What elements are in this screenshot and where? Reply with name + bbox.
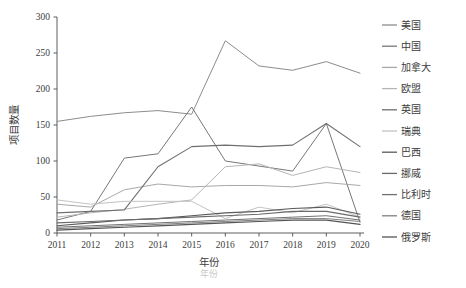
x-tick-label: 2013 bbox=[115, 240, 134, 250]
legend-item-1[interactable]: 中国 bbox=[382, 40, 421, 52]
x-tick-label: 2018 bbox=[283, 240, 302, 250]
figure-caption: 年份 bbox=[200, 268, 218, 279]
line-chart: 300250200150100500 201120122013201420152… bbox=[0, 0, 466, 288]
legend-label-0: 美国 bbox=[401, 19, 421, 31]
x-tick-label: 2020 bbox=[351, 240, 370, 250]
x-tick-label: 2012 bbox=[81, 240, 100, 250]
legend-item-3[interactable]: 欧盟 bbox=[382, 83, 421, 94]
x-tick-label: 2011 bbox=[48, 240, 67, 250]
series-lines bbox=[57, 41, 360, 230]
x-tick-label: 2019 bbox=[317, 240, 336, 250]
legend-label-4: 英国 bbox=[401, 103, 421, 115]
legend-label-9: 德国 bbox=[401, 209, 421, 221]
legend-item-0[interactable]: 美国 bbox=[382, 19, 421, 31]
y-tick-label: 0 bbox=[45, 228, 50, 238]
legend-label-6: 巴西 bbox=[401, 147, 421, 158]
legend: 美国中国加拿大欧盟英国瑞典巴西挪威比利时德国俄罗斯 bbox=[382, 19, 431, 243]
legend-label-1: 中国 bbox=[401, 40, 421, 52]
y-axis-title: 项目数量 bbox=[8, 104, 20, 145]
x-tick-label: 2014 bbox=[149, 240, 168, 250]
legend-label-10: 俄罗斯 bbox=[401, 231, 431, 243]
series-line-3 bbox=[57, 164, 360, 217]
legend-item-10[interactable]: 俄罗斯 bbox=[382, 231, 431, 243]
y-tick-label: 250 bbox=[36, 48, 51, 58]
legend-label-5: 瑞典 bbox=[401, 125, 421, 137]
x-axis-title: 年份 bbox=[199, 256, 220, 268]
figure-container: 300250200150100500 201120122013201420152… bbox=[0, 0, 466, 288]
legend-item-8[interactable]: 比利时 bbox=[382, 189, 431, 200]
legend-item-6[interactable]: 巴西 bbox=[382, 147, 421, 158]
series-line-4 bbox=[57, 124, 360, 213]
x-tick-labels: 2011201220132014201520162017201820192020 bbox=[48, 240, 370, 250]
legend-label-2: 加拿大 bbox=[401, 61, 431, 73]
y-tick-label: 150 bbox=[36, 120, 51, 130]
legend-item-2[interactable]: 加拿大 bbox=[382, 61, 431, 73]
y-tick-label: 50 bbox=[41, 192, 51, 202]
y-tick-label: 300 bbox=[36, 12, 51, 22]
y-tick-labels: 300250200150100500 bbox=[36, 12, 51, 238]
x-tick-label: 2015 bbox=[182, 240, 201, 250]
x-tick-label: 2016 bbox=[216, 240, 235, 250]
legend-item-9[interactable]: 德国 bbox=[382, 209, 421, 221]
x-tick-label: 2017 bbox=[250, 240, 269, 250]
y-tick-label: 100 bbox=[36, 156, 51, 166]
y-tick-label: 200 bbox=[36, 84, 51, 94]
legend-item-5[interactable]: 瑞典 bbox=[382, 125, 421, 137]
series-line-0 bbox=[57, 41, 360, 122]
caption-label: 年份 bbox=[200, 268, 218, 279]
legend-item-7[interactable]: 挪威 bbox=[382, 167, 421, 179]
legend-label-7: 挪威 bbox=[401, 167, 421, 179]
legend-label-3: 欧盟 bbox=[401, 83, 421, 94]
legend-label-8: 比利时 bbox=[401, 189, 431, 200]
legend-item-4[interactable]: 英国 bbox=[382, 103, 421, 115]
series-line-1 bbox=[57, 107, 360, 222]
